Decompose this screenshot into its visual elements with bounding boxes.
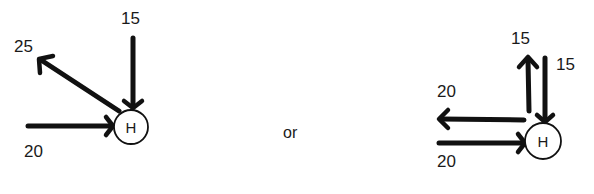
node-b: H [525, 123, 561, 159]
diagram-b: 15 15 20 20 H [437, 29, 575, 171]
label-b-out-left: 20 [437, 82, 456, 101]
label-a-in-left: 20 [24, 142, 43, 161]
label-a-in-top: 15 [121, 9, 140, 28]
arrow-a-out-upleft [39, 56, 119, 111]
label-b-in-top: 15 [556, 55, 575, 74]
diagram-a: 15 25 20 H [14, 9, 148, 161]
node-a: H [114, 110, 148, 144]
arrow-a-in-top [124, 38, 142, 108]
arrow-b-in-top [537, 58, 553, 122]
arrow-b-out-up [519, 57, 537, 111]
arrow-b-out-left [439, 110, 524, 128]
label-b-in-left: 20 [437, 152, 456, 171]
label-a-out-upleft: 25 [14, 37, 33, 56]
node-a-label: H [126, 119, 137, 136]
label-b-out-up: 15 [511, 29, 530, 48]
arrow-a-in-left [28, 117, 113, 135]
diagram-canvas: 15 25 20 H or 15 15 [0, 0, 594, 194]
arrow-b-in-left [439, 134, 525, 152]
node-b-label: H [538, 133, 549, 150]
separator-or: or [283, 124, 298, 141]
